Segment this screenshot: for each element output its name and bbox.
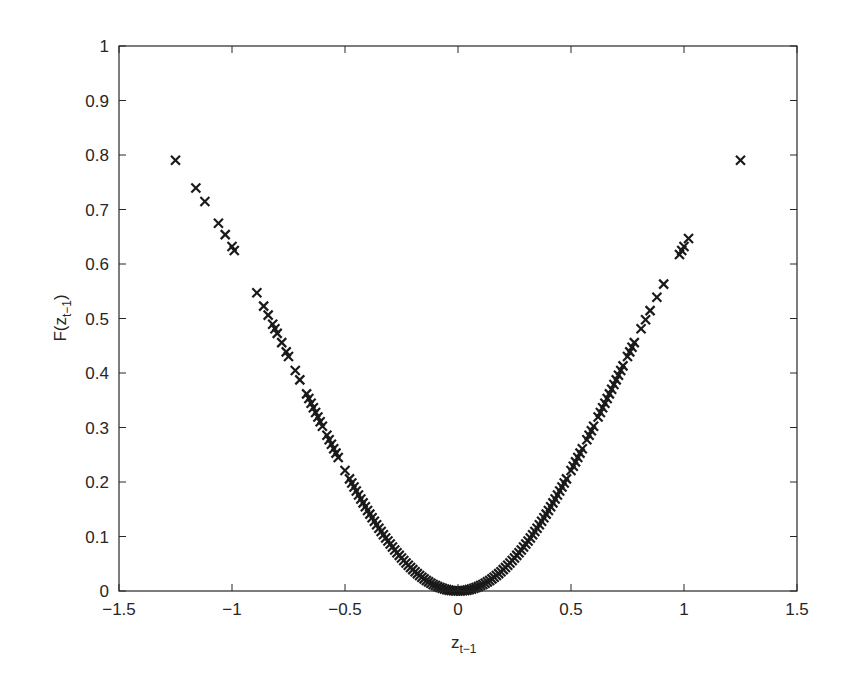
x-marker-icon <box>191 183 200 192</box>
x-marker-icon <box>659 280 668 289</box>
y-tick-label: 0.1 <box>85 528 109 547</box>
x-marker-icon <box>736 156 745 165</box>
x-marker-icon <box>295 375 304 384</box>
x-marker-icon <box>641 315 650 324</box>
y-tick-label: 0.3 <box>85 419 109 438</box>
y-tick-label: 0.6 <box>85 255 109 274</box>
x-tick-label: 0 <box>453 600 462 619</box>
y-tick-label: 0.8 <box>85 146 109 165</box>
x-marker-icon <box>259 302 268 311</box>
x-marker-icon <box>637 324 646 333</box>
plot-area <box>171 156 745 596</box>
y-tick-label: 0.2 <box>85 473 109 492</box>
x-axis-label: zt−1 <box>451 633 477 656</box>
x-marker-icon <box>291 366 300 375</box>
y-tick-label: 0.5 <box>85 310 109 329</box>
scatter-chart: −1.5−1−0.500.511.5 00.10.20.30.40.50.60.… <box>0 0 845 681</box>
x-marker-icon <box>214 219 223 228</box>
x-tick-label: 1 <box>679 600 688 619</box>
y-tick-label: 0 <box>100 582 109 601</box>
y-ticks: 00.10.20.30.40.50.60.70.80.91 <box>85 37 797 601</box>
x-marker-icon <box>221 230 230 239</box>
x-marker-icon <box>646 306 655 315</box>
axes-box <box>119 46 797 591</box>
x-marker-icon <box>264 311 273 320</box>
x-ticks: −1.5−1−0.500.511.5 <box>102 46 809 619</box>
x-tick-label: 1.5 <box>785 600 809 619</box>
x-marker-icon <box>341 466 350 475</box>
x-marker-icon <box>277 338 286 347</box>
x-marker-icon <box>252 288 261 297</box>
x-tick-label: −0.5 <box>328 600 362 619</box>
y-tick-label: 0.7 <box>85 201 109 220</box>
x-marker-icon <box>171 156 180 165</box>
x-tick-label: −1 <box>222 600 241 619</box>
x-tick-label: 0.5 <box>559 600 583 619</box>
x-marker-icon <box>684 234 693 243</box>
y-tick-label: 1 <box>100 37 109 56</box>
x-tick-label: −1.5 <box>102 600 136 619</box>
y-axis-label: F(zt−1) <box>51 294 74 341</box>
y-tick-label: 0.9 <box>85 92 109 111</box>
x-marker-icon <box>652 293 661 302</box>
y-tick-label: 0.4 <box>85 364 109 383</box>
x-marker-icon <box>200 197 209 206</box>
